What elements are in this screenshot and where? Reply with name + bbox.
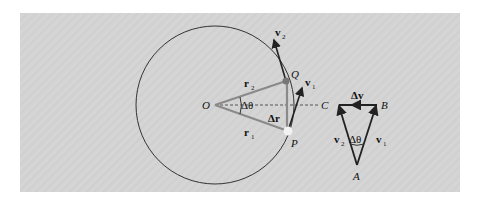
label-v2: v [275,26,281,38]
label-v1: v [305,76,311,88]
label-v2-sub: 2 [282,33,286,41]
label-delta-r: Δr [268,112,280,124]
label-r1-sub: 1 [251,133,255,141]
label-o: O [202,99,210,111]
label-b: B [381,99,388,111]
label-r1: r [244,126,249,138]
label-tri-v1: v [376,133,382,145]
label-tri-delta-theta: Δθ [349,133,361,145]
label-tri-v1-sub: 1 [383,140,387,148]
point-p [284,127,293,136]
label-tri-v2: v [334,133,340,145]
label-r2: r [244,77,249,89]
point-q [283,78,290,85]
label-v1-sub: 1 [312,83,316,91]
label-q: Q [291,68,299,80]
label-a: A [352,170,360,182]
v2-vector [274,40,286,81]
label-delta-theta: Δθ [241,99,253,111]
label-delta-v: Δv [351,89,364,101]
label-r2-sub: 2 [251,84,255,92]
label-c: C [321,99,329,111]
v1-vector [288,88,302,131]
label-p: P [290,137,298,149]
label-tri-v2-sub: 2 [341,140,345,148]
circular-motion-diagram: O Q P C r 2 r 1 Δθ Δr v 2 v 1 B A Δv v 2… [0,0,478,201]
